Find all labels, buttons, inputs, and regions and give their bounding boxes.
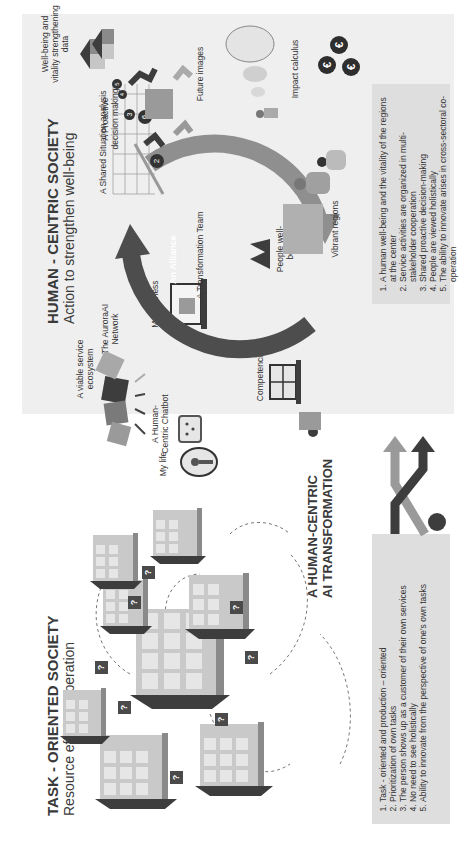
question-bubble: ?	[245, 651, 258, 664]
building	[195, 716, 277, 796]
left-title: TASK - ORIENTED SOCIETY	[44, 516, 61, 816]
list-item: Prioritization of own tasks	[388, 542, 398, 802]
my-life-icon	[175, 442, 225, 482]
question-bubble: ?	[142, 566, 155, 579]
building	[60, 684, 114, 744]
euro-coin-icon: €	[318, 56, 336, 74]
left-subtitle: Resource efficient operation	[61, 516, 77, 816]
euro-coin-icon: €	[342, 58, 360, 76]
label-vibrant-regions: Vibrant regions	[330, 199, 340, 259]
infographic-canvas: TASK - ORIENTED SOCIETY Resource efficie…	[0, 0, 472, 844]
left-numbered-list: Task - oriented and production – oriente…	[372, 534, 450, 824]
region-photo	[283, 204, 323, 254]
list-item: A human well-being and the vitality of t…	[378, 92, 398, 282]
euro-coin-icon: €	[330, 36, 348, 54]
question-bubble: ?	[95, 661, 108, 674]
list-item: The ability to innovate arises in cross-…	[438, 92, 458, 282]
arrowhead-dark	[115, 224, 150, 259]
list-item: The person shows up as a customer of the…	[398, 542, 408, 802]
label-impact-calculus: Impact calculus	[290, 29, 300, 109]
person-head-icon	[428, 513, 446, 531]
chatbot-icon	[175, 414, 205, 444]
label-proactive-decision: A Proactive decision making	[100, 84, 120, 154]
building	[150, 504, 210, 564]
question-bubble: ?	[215, 713, 228, 726]
question-bubble: ?	[170, 771, 183, 784]
people-group-icon	[290, 144, 350, 204]
right-title: HUMAN - CENTRIC SOCIETY	[44, 64, 61, 324]
crossing-arrows-icon	[365, 434, 450, 544]
right-subtitle: Action to strengthen well-being	[61, 64, 77, 324]
label-transformation-team: A Transformation Team	[195, 189, 205, 299]
label-wellbeing-data: Well-being and vitality strengthening da…	[40, 4, 70, 84]
data-blocks-icon	[70, 24, 120, 74]
label-alliance: An Alliance	[168, 204, 178, 284]
list-item: Ability to innovate from the perspective…	[418, 542, 428, 802]
list-item: Task - oriented and production – oriente…	[378, 542, 388, 802]
middle-title-line2: AI TRANSFORMATION	[320, 448, 335, 598]
question-bubble: ?	[230, 601, 243, 614]
right-title-block: HUMAN - CENTRIC SOCIETY Action to streng…	[44, 64, 77, 324]
question-bubble: ?	[118, 701, 131, 714]
left-title-block: TASK - ORIENTED SOCIETY Resource efficie…	[44, 516, 77, 816]
label-viable-service-ecosystem: A viable service ecosystem	[75, 334, 95, 404]
right-numbered-list: A human well-being and the vitality of t…	[372, 84, 450, 304]
list-item: Service activities are organized in mult…	[398, 92, 418, 282]
label-my-life: My life	[158, 444, 168, 484]
building	[185, 567, 259, 639]
list-item: People are viewed holistically	[428, 92, 438, 282]
building	[90, 529, 146, 589]
decision-people-icon	[125, 54, 195, 154]
grid-badge: 2	[150, 154, 164, 168]
competencies-icon	[265, 354, 325, 444]
label-future-images: Future images	[195, 44, 205, 104]
middle-title-line1: A HUMAN-CENTRIC	[305, 448, 320, 598]
question-bubble: ?	[128, 596, 141, 609]
person-wellbeing-icon	[245, 234, 275, 274]
list-item: Shared proactive decision-making	[418, 92, 428, 282]
middle-title-block: A HUMAN-CENTRIC AI TRANSFORMATION	[305, 448, 335, 598]
future-images-icon	[210, 24, 290, 124]
list-item: No need to see holistically	[408, 542, 418, 802]
